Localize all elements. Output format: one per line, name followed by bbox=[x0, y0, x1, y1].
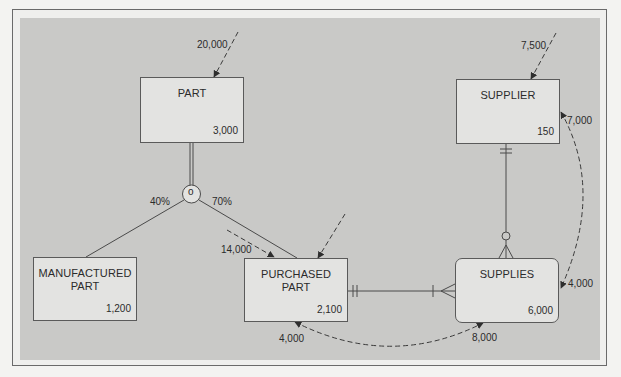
subtype-symbol: o bbox=[188, 186, 194, 198]
entity-volume: 6,000 bbox=[528, 305, 553, 317]
supplier-supplies-relationship bbox=[499, 143, 513, 258]
entity-name: MANUFACTURED PART bbox=[34, 267, 136, 293]
label-supplier-in: 7,500 bbox=[521, 40, 546, 52]
label-supplier-to-supplies: 4,000 bbox=[568, 278, 593, 290]
label-supplies-to-supplier: 7,000 bbox=[567, 115, 592, 127]
entity-name: PURCHASED PART bbox=[245, 268, 347, 294]
entity-name: SUPPLIES bbox=[456, 268, 558, 281]
entity-supplier[interactable]: SUPPLIER 150 bbox=[456, 79, 560, 144]
subtype-connector bbox=[86, 142, 297, 258]
entity-part[interactable]: PART 3,000 bbox=[140, 77, 244, 143]
entity-manufactured-part[interactable]: MANUFACTURED PART 1,200 bbox=[33, 257, 137, 321]
arrow-purchased-in bbox=[318, 214, 345, 258]
entity-volume: 2,100 bbox=[317, 304, 342, 316]
entity-volume: 3,000 bbox=[213, 125, 238, 137]
label-part-in: 20,000 bbox=[197, 39, 228, 51]
arrow-supplier-supplies bbox=[561, 112, 583, 288]
entity-volume: 1,200 bbox=[106, 303, 131, 315]
entity-name: SUPPLIER bbox=[457, 89, 559, 102]
purchased-supplies-relationship bbox=[347, 284, 455, 298]
label-supplies-to-purchased: 4,000 bbox=[279, 333, 304, 345]
entity-name: PART bbox=[141, 87, 243, 100]
label-part-to-purchased: 14,000 bbox=[221, 244, 252, 256]
purchased-percent: 70% bbox=[212, 196, 232, 208]
entity-volume: 150 bbox=[537, 126, 554, 138]
label-purchased-to-supplies: 8,000 bbox=[472, 332, 497, 344]
entity-purchased-part[interactable]: PURCHASED PART 2,100 bbox=[244, 258, 348, 322]
arrow-purchased-supplies bbox=[295, 322, 483, 346]
manufactured-percent: 40% bbox=[150, 196, 170, 208]
entity-supplies[interactable]: SUPPLIES 6,000 bbox=[455, 258, 559, 323]
